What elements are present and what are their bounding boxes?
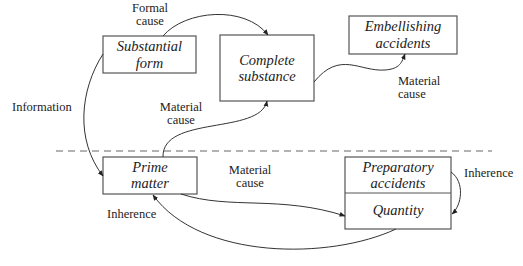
node-substantial-form-line2: form — [136, 55, 163, 71]
node-prime-matter-line2: matter — [131, 175, 169, 191]
label-material-cause-lower-line1: Material — [229, 163, 272, 177]
label-formal-cause-line1: Formal — [132, 1, 169, 15]
label-material-cause-upper-line1: Material — [160, 100, 203, 114]
node-substantial-form: Substantial form — [103, 36, 196, 73]
node-embellishing-accidents-line1: Embellishing — [364, 18, 442, 34]
node-quantity: Quantity — [373, 202, 424, 218]
node-substantial-form-line1: Substantial — [117, 38, 182, 54]
label-formal-cause-line2: cause — [136, 14, 164, 28]
arrow-material-cause-lower — [181, 194, 345, 216]
node-prime-matter-line1: Prime — [131, 159, 168, 175]
node-preparatory-accidents-line1: Preparatory — [361, 159, 434, 175]
label-material-cause-upper-line2: cause — [167, 113, 195, 127]
label-inherence-left: Inherence — [107, 207, 157, 221]
node-prime-matter: Prime matter — [103, 157, 197, 194]
label-material-cause-right-line1: Material — [398, 74, 441, 88]
label-inherence-right: Inherence — [464, 166, 514, 180]
arrow-formal-cause — [163, 14, 268, 36]
node-embellishing-accidents: Embellishing accidents — [349, 16, 457, 54]
arrow-material-cause-right — [314, 54, 405, 82]
node-embellishing-accidents-line2: accidents — [376, 35, 431, 51]
label-information: Information — [12, 100, 72, 114]
node-complete-substance: Complete substance — [220, 35, 314, 101]
node-complete-substance-line2: substance — [238, 68, 296, 84]
causation-diagram: Substantial form Complete substance Embe… — [0, 0, 523, 266]
node-preparatory-accidents-quantity: Preparatory accidents Quantity — [345, 157, 451, 229]
node-preparatory-accidents-line2: accidents — [371, 175, 426, 191]
arrow-information — [84, 54, 103, 176]
label-material-cause-right-line2: cause — [398, 87, 426, 101]
label-material-cause-lower-line2: cause — [236, 176, 264, 190]
arrow-inherence-right — [451, 172, 461, 214]
node-complete-substance-line1: Complete — [239, 52, 295, 68]
